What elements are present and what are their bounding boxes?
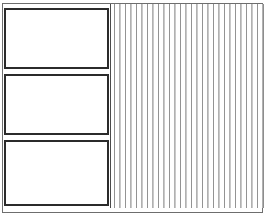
figure-canvas bbox=[0, 0, 266, 217]
vertical-stripe-region bbox=[110, 4, 264, 208]
stripe-region-right-edge bbox=[263, 4, 264, 208]
panel-column bbox=[4, 6, 109, 209]
panel-middle bbox=[4, 74, 109, 135]
panel-bottom bbox=[4, 140, 109, 206]
stripe-region-left-edge bbox=[110, 4, 111, 208]
panel-top bbox=[4, 8, 109, 69]
